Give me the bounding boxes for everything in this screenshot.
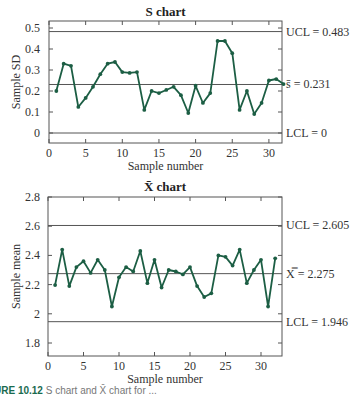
- control-label-center: s̄ = 0.231: [286, 77, 330, 91]
- data-point: [117, 275, 121, 279]
- data-point: [98, 72, 102, 76]
- figure-caption: URE 10.12 S chart and X̄ chart for ...: [0, 385, 157, 396]
- data-point: [172, 85, 176, 89]
- control-label-lcl: LCL = 1.946: [286, 315, 348, 329]
- chart-title: X̄ chart: [144, 179, 187, 194]
- data-point: [164, 88, 168, 92]
- data-point: [273, 256, 277, 260]
- x-tick-label: 30: [263, 146, 275, 160]
- data-point: [195, 284, 199, 288]
- x-tick-label: 0: [45, 359, 51, 373]
- data-point: [54, 89, 58, 93]
- x-axis-title: Sample number: [128, 159, 204, 173]
- x-tick-label: 10: [116, 146, 128, 160]
- data-point: [69, 64, 73, 68]
- y-tick-label: 0.5: [25, 21, 40, 35]
- y-tick-label: 2.2: [25, 278, 40, 292]
- data-point: [245, 281, 249, 285]
- data-point: [208, 91, 212, 95]
- data-point: [124, 265, 128, 269]
- data-point: [135, 70, 139, 74]
- data-point: [230, 51, 234, 55]
- y-tick-label: 0.4: [25, 42, 40, 56]
- y-axis-title: Sample SD: [9, 55, 23, 110]
- data-point: [110, 305, 114, 309]
- data-point: [216, 39, 220, 43]
- data-point: [153, 258, 157, 262]
- data-point: [67, 284, 71, 288]
- data-point: [91, 85, 95, 89]
- chart-title: S chart: [145, 4, 186, 19]
- plot-frame: [49, 21, 282, 143]
- y-tick-label: 2.4: [25, 248, 40, 262]
- data-point: [62, 62, 66, 66]
- data-point: [252, 112, 256, 116]
- x-tick-label: 30: [255, 359, 267, 373]
- data-point: [188, 265, 192, 269]
- x-tick-label: 0: [46, 146, 52, 160]
- data-point: [274, 77, 278, 81]
- y-tick-label: 1.8: [25, 336, 40, 350]
- data-point: [157, 91, 161, 95]
- data-point: [209, 291, 213, 295]
- data-point: [96, 258, 100, 262]
- data-point: [53, 283, 57, 287]
- data-point: [179, 93, 183, 97]
- data-point: [160, 286, 164, 290]
- data-point: [245, 89, 249, 93]
- data-point: [186, 111, 190, 115]
- y-tick-label: 2.6: [25, 219, 40, 233]
- data-point: [252, 268, 256, 272]
- data-point: [260, 101, 264, 105]
- chart-xbar: X̄ chart1.822.22.42.62.8051015202530Samp…: [9, 179, 349, 386]
- x-tick-label: 25: [226, 146, 238, 160]
- data-point: [142, 108, 146, 112]
- x-tick-label: 20: [190, 146, 202, 160]
- x-tick-label: 15: [149, 359, 161, 373]
- y-tick-label: 0.3: [25, 63, 40, 77]
- data-point: [103, 268, 107, 272]
- data-point: [128, 71, 132, 75]
- data-point: [282, 82, 286, 86]
- data-point: [238, 248, 242, 252]
- caption-label: URE 10.12: [0, 385, 43, 396]
- data-point: [131, 270, 135, 274]
- data-point: [106, 62, 110, 66]
- x-tick-label: 5: [81, 359, 87, 373]
- data-point: [201, 101, 205, 105]
- data-point: [138, 249, 142, 253]
- data-point: [76, 105, 80, 109]
- control-label-ucl: UCL = 2.605: [286, 218, 349, 232]
- data-point: [181, 272, 185, 276]
- data-point: [89, 271, 93, 275]
- x-tick-label: 15: [153, 146, 165, 160]
- control-label-lcl: LCL = 0: [286, 126, 327, 140]
- data-point: [223, 39, 227, 43]
- data-point: [113, 60, 117, 64]
- data-point: [217, 254, 221, 258]
- data-point: [150, 89, 154, 93]
- data-point: [167, 268, 171, 272]
- data-point: [267, 79, 271, 83]
- data-point: [224, 255, 228, 259]
- y-tick-label: 2.8: [25, 190, 40, 204]
- x-tick-label: 20: [184, 359, 196, 373]
- x-axis-title: Sample number: [127, 372, 203, 386]
- data-point: [120, 70, 124, 74]
- data-point: [202, 295, 206, 299]
- x-tick-label: 10: [113, 359, 125, 373]
- y-tick-label: 0: [34, 126, 40, 140]
- data-series-line: [55, 250, 275, 307]
- data-point: [231, 264, 235, 268]
- control-charts: S chart00.10.20.30.40.5051015202530Sampl…: [0, 0, 356, 399]
- data-point: [194, 84, 198, 88]
- caption-text: S chart and X̄ chart for ...: [46, 385, 157, 396]
- data-point: [174, 270, 178, 274]
- control-label-center: X̿ = 2.275: [286, 267, 334, 281]
- y-tick-label: 0.1: [25, 105, 40, 119]
- plot-frame: [48, 197, 282, 356]
- x-tick-label: 25: [220, 359, 232, 373]
- data-point: [259, 258, 263, 262]
- data-point: [146, 281, 150, 285]
- y-axis-title: Sample mean: [9, 244, 23, 309]
